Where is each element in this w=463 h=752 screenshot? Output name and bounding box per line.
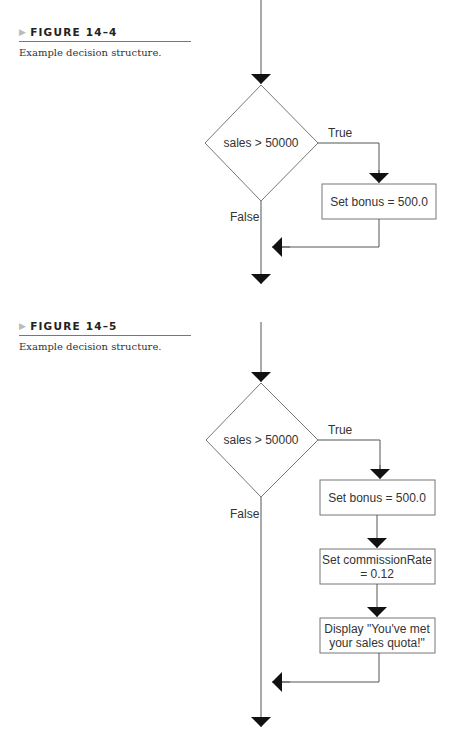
flowchart-figure-14-4: sales > 50000 True Set bonus = 500.0 Fal… (205, 0, 436, 284)
process-label-line1: Display "You've met (324, 622, 430, 636)
process-label-line2: your sales quota!" (329, 636, 425, 650)
merge-line (274, 653, 379, 682)
process-label-line2: = 0.12 (360, 567, 394, 581)
false-label: False (230, 210, 260, 224)
true-label: True (328, 423, 353, 437)
process-label-line1: Set commissionRate (322, 553, 432, 567)
flowchart-figure-14-5: sales > 50000 True Set bonus = 500.0 Set… (206, 322, 435, 727)
true-branch-line (318, 143, 379, 182)
false-label: False (230, 507, 260, 521)
decision-label: sales > 50000 (223, 136, 298, 150)
merge-line (274, 219, 379, 247)
true-branch-line (318, 440, 380, 478)
decision-label: sales > 50000 (223, 433, 298, 447)
flowchart-canvas: sales > 50000 True Set bonus = 500.0 Fal… (0, 0, 463, 752)
process-label: Set bonus = 500.0 (328, 491, 426, 505)
true-label: True (328, 126, 353, 140)
process-label: Set bonus = 500.0 (330, 195, 428, 209)
